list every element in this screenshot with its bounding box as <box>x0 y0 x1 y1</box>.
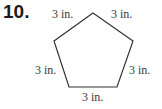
side-label-top-right: 3 in. <box>111 8 132 21</box>
pentagon-figure <box>0 0 162 109</box>
pentagon-shape <box>54 13 133 87</box>
side-label-bottom: 3 in. <box>82 91 103 104</box>
side-label-left: 3 in. <box>35 64 56 77</box>
side-label-right: 3 in. <box>129 64 150 77</box>
side-label-top-left: 3 in. <box>52 8 73 21</box>
